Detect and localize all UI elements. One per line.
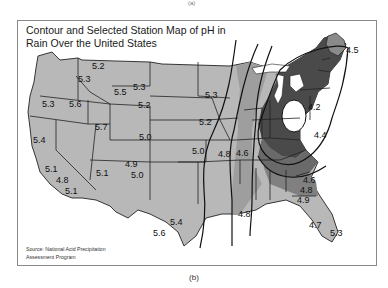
station-label: 4.2	[308, 102, 321, 112]
station-label: 5.4	[33, 135, 46, 145]
map-title-line1: Contour and Selected Station Map of pH i…	[26, 24, 226, 37]
station-label: 4.9	[125, 159, 138, 169]
station-label: 5.2	[138, 100, 151, 110]
station-label: 4.5	[346, 45, 359, 55]
station-label: 5.0	[192, 146, 205, 156]
station-label: 4.6	[303, 175, 316, 185]
station-label: 5.0	[131, 170, 144, 180]
station-label: 5.1	[65, 186, 78, 196]
station-label: 4.8	[238, 209, 251, 219]
station-label: 5.5	[114, 87, 127, 97]
station-label: 4.7	[309, 220, 322, 230]
source-note: Source: National Acid Precipitation Asse…	[26, 245, 106, 261]
station-label: 4.4	[314, 130, 327, 140]
station-label: 5.3	[205, 90, 218, 100]
lowest-ph-core	[282, 100, 306, 132]
station-label: 5.4	[170, 217, 183, 227]
figure-caption: (b)	[0, 273, 388, 282]
station-label: 5.3	[133, 82, 146, 92]
source-line1: Source: National Acid Precipitation	[26, 245, 106, 253]
station-label: 5.2	[92, 61, 105, 71]
station-label: 5.3	[330, 228, 343, 238]
station-label: 5.3	[78, 74, 91, 84]
station-label: 5.1	[96, 168, 109, 178]
station-label: 5.1	[45, 164, 58, 174]
station-label: 4.8	[56, 175, 69, 185]
station-label: 5.2	[199, 117, 212, 127]
station-label: 5.3	[42, 99, 55, 109]
source-line2: Assessment Program	[26, 253, 106, 261]
station-label: 4.8	[218, 149, 231, 159]
station-label: 5.7	[95, 122, 108, 132]
station-label: 5.0	[139, 132, 152, 142]
station-label: 4.9	[297, 195, 310, 205]
map-title: Contour and Selected Station Map of pH i…	[26, 24, 226, 50]
station-label: 4.8	[300, 185, 313, 195]
station-label: 4.6	[236, 148, 249, 158]
map-title-line2: Rain Over the United States	[26, 37, 226, 50]
station-label: 5.6	[69, 99, 82, 109]
station-label: 5.6	[153, 228, 166, 238]
